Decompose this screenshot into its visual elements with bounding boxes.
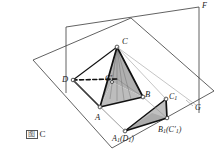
label-D: D [62, 75, 68, 84]
label-C1-subscript: 1 [174, 95, 177, 101]
label-A1-D1: A1(D1) [112, 135, 134, 143]
label-B1-paren: (C′1) [166, 125, 181, 134]
label-C: C [122, 37, 128, 46]
label-F: F [202, 2, 207, 10]
label-B: B [145, 90, 150, 99]
caption-mark: 图 [26, 130, 38, 139]
label-B1-C1prime: B1(C′1) [158, 126, 181, 134]
label-C1: C1 [169, 93, 177, 101]
label-C-prime: C′ [105, 75, 112, 83]
label-A1-paren: (D1) [120, 134, 134, 143]
label-C-prime-mark: ′ [110, 74, 112, 83]
caption-letter: C [40, 129, 47, 139]
geometry-figure: F C D C′ B C1 A G B1(C′1) A1(D1) 图C [0, 0, 216, 149]
label-A: A [95, 113, 100, 122]
edge-B1C1 [166, 99, 167, 118]
figure-caption: 图C [26, 129, 46, 139]
label-G: G [195, 104, 201, 112]
